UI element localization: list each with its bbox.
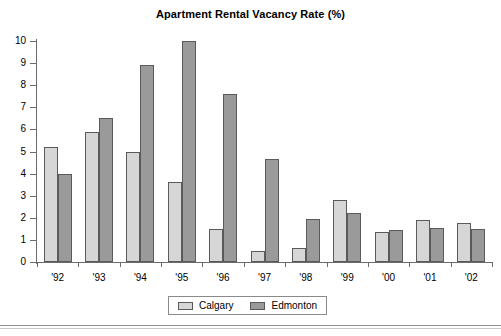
x-axis-label: '95	[162, 272, 202, 283]
y-axis-tick	[30, 152, 36, 153]
x-axis-tick	[37, 262, 38, 267]
x-axis-line	[36, 262, 493, 263]
x-axis-tick	[409, 262, 410, 267]
legend-entry-calgary: Calgary	[178, 300, 233, 311]
x-axis-tick	[120, 262, 121, 267]
chart-title: Apartment Rental Vacancy Rate (%)	[0, 8, 501, 20]
y-axis-label: 7	[0, 102, 26, 112]
bar-edmonton-99	[347, 213, 361, 262]
legend-swatch-icon	[178, 302, 193, 310]
y-axis-label: 8	[0, 80, 26, 90]
x-axis-label: '97	[245, 272, 285, 283]
y-axis-tick	[30, 196, 36, 197]
x-axis-tick	[161, 262, 162, 267]
x-axis-tick	[202, 262, 203, 267]
y-axis-tick	[30, 174, 36, 175]
bar-edmonton-98	[306, 219, 320, 262]
x-axis-label: '93	[79, 272, 119, 283]
legend-swatch-icon	[250, 302, 265, 310]
bar-edmonton-00	[389, 230, 403, 262]
footer-rule-bottom	[0, 328, 501, 329]
chart-legend: CalgaryEdmonton	[168, 296, 327, 315]
bar-edmonton-96	[223, 94, 237, 262]
legend-label: Edmonton	[271, 300, 317, 311]
x-axis-label: '99	[327, 272, 367, 283]
y-axis-tick	[30, 218, 36, 219]
y-axis-tick	[30, 129, 36, 130]
x-axis-label: '00	[369, 272, 409, 283]
bar-edmonton-94	[140, 65, 154, 262]
bar-edmonton-02	[471, 229, 485, 262]
x-axis-label: '96	[203, 272, 243, 283]
bar-edmonton-92	[58, 174, 72, 262]
y-axis-tick	[30, 107, 36, 108]
y-axis-label: 6	[0, 124, 26, 134]
legend-entry-edmonton: Edmonton	[250, 300, 317, 311]
y-axis-label: 4	[0, 169, 26, 179]
bar-calgary-96	[209, 229, 223, 262]
bar-calgary-00	[375, 232, 389, 262]
y-axis-label: 1	[0, 235, 26, 245]
y-axis-label: 5	[0, 147, 26, 157]
bar-calgary-93	[85, 132, 99, 262]
chart-figure: Apartment Rental Vacancy Rate (%) 012345…	[0, 0, 501, 336]
x-axis-tick	[285, 262, 286, 267]
x-axis-tick	[492, 262, 493, 267]
y-axis-tick	[30, 240, 36, 241]
bar-edmonton-97	[265, 159, 279, 262]
x-axis-label: '02	[451, 272, 491, 283]
bar-calgary-92	[44, 147, 58, 262]
y-axis-tick	[30, 262, 36, 263]
bar-calgary-98	[292, 248, 306, 262]
bar-edmonton-01	[430, 228, 444, 262]
bar-calgary-01	[416, 220, 430, 262]
footer-rule-top	[0, 325, 501, 326]
x-axis-label: '94	[120, 272, 160, 283]
y-axis-label: 0	[0, 257, 26, 267]
bar-edmonton-93	[99, 118, 113, 262]
x-axis-tick	[78, 262, 79, 267]
bar-calgary-94	[126, 152, 140, 263]
y-axis-label: 9	[0, 58, 26, 68]
x-axis-label: '01	[410, 272, 450, 283]
x-axis-label: '98	[286, 272, 326, 283]
y-axis-tick	[30, 41, 36, 42]
x-axis-tick	[451, 262, 452, 267]
x-axis-tick	[244, 262, 245, 267]
bar-calgary-97	[251, 251, 265, 262]
bar-calgary-99	[333, 200, 347, 262]
y-axis-label: 10	[0, 36, 26, 46]
bar-calgary-02	[457, 223, 471, 262]
x-axis-label: '92	[38, 272, 78, 283]
y-axis-tick	[30, 63, 36, 64]
x-axis-tick	[327, 262, 328, 267]
y-axis-tick	[30, 85, 36, 86]
y-axis-label: 2	[0, 213, 26, 223]
plot-area	[37, 41, 492, 262]
bar-edmonton-95	[182, 41, 196, 262]
legend-label: Calgary	[199, 300, 233, 311]
bar-calgary-95	[168, 182, 182, 262]
y-axis-label: 3	[0, 191, 26, 201]
x-axis-tick	[368, 262, 369, 267]
